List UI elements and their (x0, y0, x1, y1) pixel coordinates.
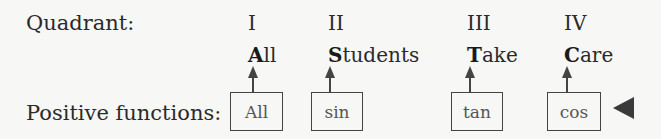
arrow-shaft (566, 76, 568, 92)
word-rest: are (580, 43, 613, 67)
function-box-all: All (230, 92, 283, 131)
mnemonic-word-care: Care (564, 43, 613, 67)
function-box-cos: cos (547, 92, 601, 131)
quadrant-numeral-2: II (328, 11, 344, 35)
word-rest: ll (264, 43, 277, 67)
positive-functions-label: Positive functions: (26, 101, 221, 125)
quadrant-numeral-3: III (467, 11, 491, 35)
word-initial: S (328, 43, 342, 67)
mnemonic-word-students: Students (328, 43, 419, 67)
word-rest: tudents (342, 43, 419, 67)
quadrant-numeral-4: IV (564, 11, 586, 35)
mnemonic-word-all: All (248, 43, 276, 67)
word-initial: C (564, 43, 580, 67)
arrow-shaft (329, 76, 331, 92)
function-box-tan: tan (451, 92, 503, 131)
word-initial: A (248, 43, 264, 67)
pointer-left-icon (613, 97, 634, 119)
arrow-shaft (252, 76, 254, 92)
quadrant-label: Quadrant: (26, 11, 134, 35)
arrow-shaft (469, 76, 471, 92)
quadrant-numeral-1: I (248, 11, 256, 35)
word-rest: ake (482, 43, 518, 67)
function-box-sin: sin (311, 92, 363, 131)
word-initial: T (467, 43, 482, 67)
mnemonic-word-take: Take (467, 43, 518, 67)
